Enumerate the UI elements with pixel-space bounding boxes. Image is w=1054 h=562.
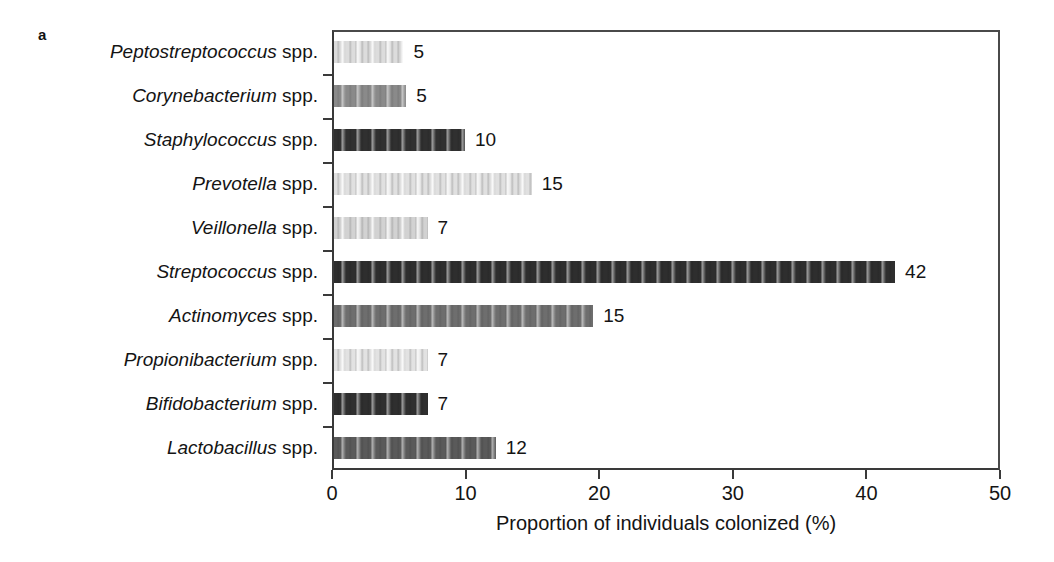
bar-row: Propionibacterium spp.7	[0, 338, 1054, 382]
y-axis-tick	[323, 338, 332, 340]
species-suffix: spp.	[277, 129, 318, 150]
species-suffix: spp.	[277, 85, 318, 106]
bar	[334, 261, 895, 283]
bar-value-label: 7	[438, 382, 449, 426]
y-axis-tick	[323, 162, 332, 164]
bar-row: Prevotella spp.15	[0, 162, 1054, 206]
category-label: Staphylococcus spp.	[144, 118, 318, 162]
genus-name: Staphylococcus	[144, 129, 277, 150]
bar-texture	[334, 305, 593, 327]
bar	[334, 173, 532, 195]
genus-name: Prevotella	[192, 173, 277, 194]
bar-row: Lactobacillus spp.12	[0, 426, 1054, 470]
category-label: Corynebacterium spp.	[132, 74, 318, 118]
species-suffix: spp.	[277, 41, 318, 62]
bar-value-label: 7	[438, 206, 449, 250]
genus-name: Corynebacterium	[132, 85, 277, 106]
x-axis-tick-label: 50	[989, 482, 1011, 505]
bar-texture	[334, 393, 428, 415]
genus-name: Actinomyces	[169, 305, 277, 326]
x-axis-tick-label: 20	[588, 482, 610, 505]
bar-texture	[334, 437, 496, 459]
genus-name: Lactobacillus	[167, 437, 277, 458]
x-axis-tick-label: 40	[855, 482, 877, 505]
x-axis-title: Proportion of individuals colonized (%)	[332, 512, 1000, 535]
category-label: Prevotella spp.	[192, 162, 318, 206]
bar	[334, 85, 406, 107]
bar	[334, 393, 428, 415]
bar	[334, 129, 465, 151]
x-axis-tick	[598, 470, 600, 479]
y-axis-tick	[323, 426, 332, 428]
bar-row: Staphylococcus spp.10	[0, 118, 1054, 162]
y-axis-tick	[323, 294, 332, 296]
bar-value-label: 5	[413, 30, 424, 74]
x-axis-tick-label: 10	[454, 482, 476, 505]
bar-value-label: 7	[438, 338, 449, 382]
species-suffix: spp.	[277, 349, 318, 370]
genus-name: Veillonella	[191, 217, 277, 238]
bar-row: Bifidobacterium spp.7	[0, 382, 1054, 426]
bar-row: Corynebacterium spp.5	[0, 74, 1054, 118]
bar-value-label: 5	[416, 74, 427, 118]
bar	[334, 437, 496, 459]
category-label: Veillonella spp.	[191, 206, 318, 250]
y-axis-tick	[323, 206, 332, 208]
category-label: Streptococcus spp.	[156, 250, 318, 294]
genus-name: Streptococcus	[156, 261, 276, 282]
bar-texture	[334, 217, 428, 239]
genus-name: Bifidobacterium	[146, 393, 277, 414]
bar	[334, 41, 403, 63]
y-axis-tick	[323, 74, 332, 76]
bar-texture	[334, 129, 465, 151]
bar-value-label: 42	[905, 250, 926, 294]
category-label: Actinomyces spp.	[169, 294, 318, 338]
y-axis-tick	[323, 382, 332, 384]
y-axis-tick	[323, 250, 332, 252]
bar-value-label: 15	[603, 294, 624, 338]
genus-name: Peptostreptococcus	[110, 41, 277, 62]
x-axis-tick	[331, 470, 333, 479]
category-label: Lactobacillus spp.	[167, 426, 318, 470]
species-suffix: spp.	[277, 173, 318, 194]
species-suffix: spp.	[277, 437, 318, 458]
x-axis-tick	[999, 470, 1001, 479]
bar-row: Actinomyces spp.15	[0, 294, 1054, 338]
bar	[334, 305, 593, 327]
bar-value-label: 15	[542, 162, 563, 206]
x-axis-tick	[465, 470, 467, 479]
x-axis-tick-label: 0	[326, 482, 337, 505]
species-suffix: spp.	[277, 261, 318, 282]
species-suffix: spp.	[277, 305, 318, 326]
bar-value-label: 12	[506, 426, 527, 470]
y-axis-tick	[323, 118, 332, 120]
category-label: Bifidobacterium spp.	[146, 382, 318, 426]
bar-texture	[334, 349, 428, 371]
category-label: Propionibacterium spp.	[124, 338, 318, 382]
x-axis-tick-label: 30	[722, 482, 744, 505]
bar-row: Streptococcus spp.42	[0, 250, 1054, 294]
bar-texture	[334, 85, 406, 107]
bar-row: Peptostreptococcus spp.5	[0, 30, 1054, 74]
category-label: Peptostreptococcus spp.	[110, 30, 318, 74]
bar-texture	[334, 41, 403, 63]
bar	[334, 217, 428, 239]
bar-texture	[334, 173, 532, 195]
x-axis-tick	[865, 470, 867, 479]
bar-texture	[334, 261, 895, 283]
species-suffix: spp.	[277, 393, 318, 414]
genus-name: Propionibacterium	[124, 349, 277, 370]
bar-row: Veillonella spp.7	[0, 206, 1054, 250]
x-axis-tick	[732, 470, 734, 479]
species-suffix: spp.	[277, 217, 318, 238]
figure-panel-a: a Peptostreptococcus spp.5Corynebacteriu…	[0, 0, 1054, 562]
bar-value-label: 10	[475, 118, 496, 162]
bar	[334, 349, 428, 371]
